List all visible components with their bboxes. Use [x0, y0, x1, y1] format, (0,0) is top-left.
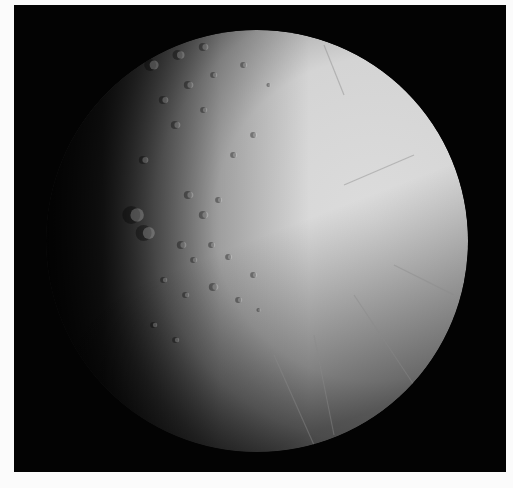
crater-highlight [238, 298, 243, 303]
crater-highlight [228, 255, 233, 260]
crater-highlight [211, 243, 216, 248]
moon-photo [14, 5, 506, 472]
crater-highlight [153, 323, 158, 328]
crater-highlight [162, 97, 168, 103]
crater-highlight [174, 122, 180, 128]
moon-disk [14, 5, 506, 472]
page-background [0, 0, 513, 488]
crater-highlight [253, 273, 257, 278]
crater-highlight [130, 208, 144, 222]
crater-highlight [213, 73, 218, 78]
crater-highlight [177, 51, 185, 59]
crater-highlight [218, 198, 223, 203]
photo-frame [14, 5, 506, 472]
crater-highlight [185, 293, 190, 298]
crater-highlight [243, 63, 248, 68]
crater-highlight [163, 278, 168, 283]
caption [0, 474, 513, 488]
crater-highlight [202, 44, 208, 50]
crater-highlight [268, 84, 271, 87]
crater-highlight [253, 133, 257, 138]
crater-highlight [202, 212, 208, 218]
crater-highlight [203, 108, 208, 113]
crater-highlight [187, 82, 193, 88]
crater-highlight [180, 242, 186, 248]
crater-highlight [212, 284, 218, 290]
crater-highlight [150, 61, 159, 70]
crater-highlight [193, 258, 198, 263]
crater-highlight [175, 338, 180, 343]
crater-highlight [143, 227, 155, 239]
crater-highlight [233, 153, 238, 158]
crater-highlight [258, 309, 261, 312]
crater-highlight [142, 157, 148, 163]
crater-highlight [187, 192, 193, 198]
